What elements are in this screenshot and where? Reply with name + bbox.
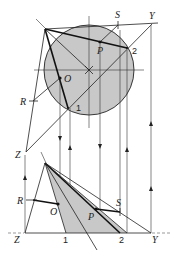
label-O-front: O (50, 206, 57, 217)
label-P-top: P (96, 45, 103, 56)
arrow-up-icon (125, 147, 129, 152)
label-Y-front: Y (152, 234, 159, 245)
edge-apex-Z (25, 163, 45, 233)
point-O-top (58, 76, 61, 79)
diagram-svg: S Y P 2 O R 1 Z (0, 0, 181, 254)
label-Y-top: Y (149, 10, 156, 21)
apex-extension-front (41, 152, 46, 163)
label-2-front: 2 (119, 235, 124, 245)
label-S-front: S (116, 197, 121, 208)
point-2-top (126, 47, 128, 49)
label-Z-mid: Z (15, 149, 21, 160)
label-Z-front: Z (14, 234, 20, 245)
point-P-top (98, 40, 101, 43)
arrow-up-icon (149, 121, 153, 126)
top-view: S Y P 2 O R 1 Z (15, 9, 158, 160)
point-P-front (94, 207, 97, 210)
label-2-top: 2 (132, 46, 137, 56)
projection-diagram: S Y P 2 O R 1 Z (0, 0, 181, 254)
apex-extension-top (36, 19, 46, 29)
arrow-up-icon (68, 145, 72, 150)
arrow-up-icon (149, 186, 153, 191)
segment-R-O (33, 200, 58, 204)
label-1-front: 1 (63, 235, 68, 245)
arrow-down-icon (58, 136, 62, 141)
label-S-top: S (115, 9, 120, 20)
label-P-front: P (87, 211, 94, 222)
front-view: R O P S Z 1 2 Y (8, 152, 172, 250)
label-O-top: O (64, 73, 71, 84)
arrow-up-icon (23, 175, 27, 180)
label-R-top: R (19, 96, 26, 107)
arrow-down-icon (98, 144, 102, 149)
label-1-top: 1 (76, 103, 81, 113)
label-R-front: R (16, 195, 23, 206)
line-apex-Z-top (26, 29, 45, 152)
point-1-top (67, 107, 69, 109)
